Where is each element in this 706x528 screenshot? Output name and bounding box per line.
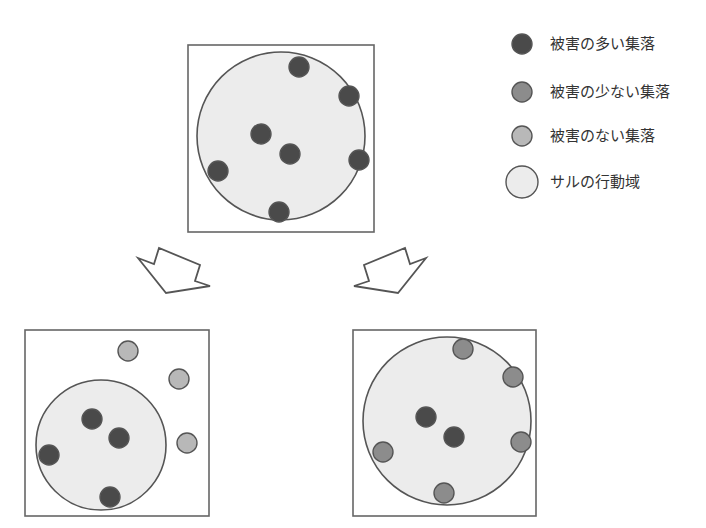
monkey-range-circle [197,52,365,220]
legend-item-many-damage: 被害の多い集落 [512,34,655,54]
village-dot-few-damage [373,442,393,462]
legend-swatch-icon [506,166,538,198]
village-dot-many-damage [39,445,59,465]
legend-label: 被害の多い集落 [550,35,655,53]
panel-bottom-right [353,330,536,516]
village-dot-many-damage [82,409,102,429]
village-dot-many-damage [109,428,129,448]
diagram-canvas: 被害の多い集落被害の少ない集落被害のない集落サルの行動域 [0,0,706,528]
village-dot-many-damage [208,161,228,181]
legend-swatch-icon [512,34,532,54]
village-dot-no-damage [169,369,189,389]
village-dot-many-damage [280,144,300,164]
village-dot-many-damage [289,57,309,77]
legend-item-no-damage: 被害のない集落 [512,126,655,146]
arrows [138,248,426,293]
legend-label: サルの行動域 [550,173,640,191]
monkey-range-circle [36,380,166,510]
legend: 被害の多い集落被害の少ない集落被害のない集落サルの行動域 [506,34,670,198]
arrow-right-icon [354,248,426,293]
legend-label: 被害の少ない集落 [550,83,670,101]
village-dot-many-damage [444,427,464,447]
panels [25,45,536,516]
village-dot-many-damage [251,124,271,144]
village-dot-many-damage [100,487,120,507]
village-dot-many-damage [349,150,369,170]
village-dot-many-damage [416,407,436,427]
panel-bottom-left [25,330,209,516]
arrow-left-icon [138,248,210,293]
village-dot-few-damage [453,339,473,359]
monkey-range-circle [363,337,531,505]
legend-label: 被害のない集落 [550,127,655,145]
legend-item-range-fill: サルの行動域 [506,166,640,198]
legend-item-few-damage: 被害の少ない集落 [512,82,670,102]
legend-swatch-icon [512,126,532,146]
village-dot-few-damage [503,367,523,387]
village-dot-few-damage [511,432,531,452]
legend-swatch-icon [512,82,532,102]
panel-top [188,45,374,232]
village-dot-few-damage [434,483,454,503]
village-dot-no-damage [118,341,138,361]
village-dot-no-damage [177,433,197,453]
village-dot-many-damage [269,202,289,222]
village-dot-many-damage [339,86,359,106]
